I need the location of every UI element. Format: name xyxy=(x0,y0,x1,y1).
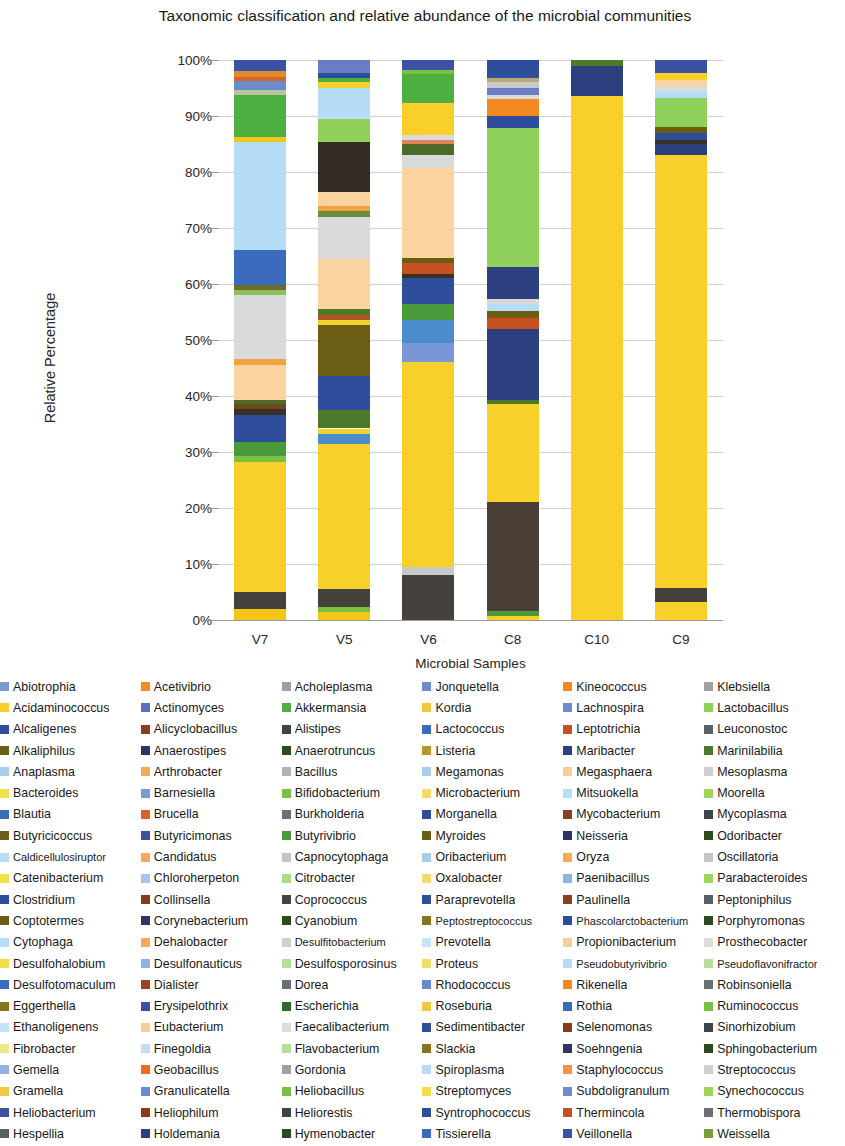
legend-item[interactable]: Peptostreptococcus xyxy=(422,910,563,931)
legend-item[interactable]: Kineococcus xyxy=(563,676,704,697)
legend-item[interactable]: Dehalobacter xyxy=(141,932,282,953)
legend-item[interactable]: Heliorestis xyxy=(282,1102,423,1123)
legend-item[interactable]: Cyanobium xyxy=(282,910,423,931)
legend-item[interactable]: Acetivibrio xyxy=(141,676,282,697)
legend-item[interactable]: Granulicatella xyxy=(141,1081,282,1102)
legend-item[interactable]: Oribacterium xyxy=(422,846,563,867)
legend-item[interactable]: Alicyclobacillus xyxy=(141,719,282,740)
legend-item[interactable]: Dorea xyxy=(282,974,423,995)
legend-item[interactable]: Sphingobacterium xyxy=(704,1038,845,1059)
legend-item[interactable]: Heliophilum xyxy=(141,1102,282,1123)
legend-item[interactable]: Bacteroides xyxy=(0,782,141,803)
legend-item[interactable]: Microbacterium xyxy=(422,782,563,803)
legend-item[interactable]: Lachnospira xyxy=(563,697,704,718)
legend-item[interactable]: Desulfosporosinus xyxy=(282,953,423,974)
legend-item[interactable]: Klebsiella xyxy=(704,676,845,697)
legend-item[interactable]: Odoribacter xyxy=(704,825,845,846)
legend-item[interactable]: Anaerostipes xyxy=(141,740,282,761)
legend-item[interactable]: Faecalibacterium xyxy=(282,1017,423,1038)
legend-item[interactable]: Cytophaga xyxy=(0,932,141,953)
legend-item[interactable]: Peptoniphilus xyxy=(704,889,845,910)
legend-item[interactable]: Streptomyces xyxy=(422,1081,563,1102)
legend-item[interactable]: Capnocytophaga xyxy=(282,846,423,867)
legend-item[interactable]: Escherichia xyxy=(282,995,423,1016)
legend-item[interactable]: Morganella xyxy=(422,804,563,825)
legend-item[interactable]: Propionibacterium xyxy=(563,932,704,953)
legend-item[interactable]: Streptococcus xyxy=(704,1059,845,1080)
legend-item[interactable]: Porphyromonas xyxy=(704,910,845,931)
legend-item[interactable]: Desulfitobacterium xyxy=(282,932,423,953)
legend-item[interactable]: Abiotrophia xyxy=(0,676,141,697)
legend-item[interactable]: Hymenobacter xyxy=(282,1123,423,1144)
legend-item[interactable]: Heliobacterium xyxy=(0,1102,141,1123)
legend-item[interactable]: Brucella xyxy=(141,804,282,825)
legend-item[interactable]: Collinsella xyxy=(141,889,282,910)
legend-item[interactable]: Burkholderia xyxy=(282,804,423,825)
legend-item[interactable]: Sedimentibacter xyxy=(422,1017,563,1038)
legend-item[interactable]: Candidatus xyxy=(141,846,282,867)
legend-item[interactable]: Roseburia xyxy=(422,995,563,1016)
legend-item[interactable]: Robinsoniella xyxy=(704,974,845,995)
legend-item[interactable]: Ethanoligenens xyxy=(0,1017,141,1038)
legend-item[interactable]: Anaerotruncus xyxy=(282,740,423,761)
legend-item[interactable]: Veillonella xyxy=(563,1123,704,1144)
legend-item[interactable]: Slackia xyxy=(422,1038,563,1059)
legend-item[interactable]: Rothia xyxy=(563,995,704,1016)
legend-item[interactable]: Eubacterium xyxy=(141,1017,282,1038)
legend-item[interactable]: Fibrobacter xyxy=(0,1038,141,1059)
legend-item[interactable]: Prosthecobacter xyxy=(704,932,845,953)
legend-item[interactable]: Coptotermes xyxy=(0,910,141,931)
legend-item[interactable]: Gemella xyxy=(0,1059,141,1080)
legend-item[interactable]: Anaplasma xyxy=(0,761,141,782)
legend-item[interactable]: Phascolarctobacterium xyxy=(563,910,704,931)
legend-item[interactable]: Mycobacterium xyxy=(563,804,704,825)
legend-item[interactable]: Citrobacter xyxy=(282,868,423,889)
legend-item[interactable]: Paenibacillus xyxy=(563,868,704,889)
legend-item[interactable]: Caldicellulosiruptor xyxy=(0,846,141,867)
legend-item[interactable]: Syntrophococcus xyxy=(422,1102,563,1123)
legend-item[interactable]: Moorella xyxy=(704,782,845,803)
legend-item[interactable]: Synechococcus xyxy=(704,1081,845,1102)
legend-item[interactable]: Arthrobacter xyxy=(141,761,282,782)
legend-item[interactable]: Alkaliphilus xyxy=(0,740,141,761)
legend-item[interactable]: Erysipelothrix xyxy=(141,995,282,1016)
legend-item[interactable]: Oscillatoria xyxy=(704,846,845,867)
legend-item[interactable]: Corynebacterium xyxy=(141,910,282,931)
legend-item[interactable]: Thermobispora xyxy=(704,1102,845,1123)
legend-item[interactable]: Oryza xyxy=(563,846,704,867)
legend-item[interactable]: Jonquetella xyxy=(422,676,563,697)
legend-item[interactable]: Parabacteroides xyxy=(704,868,845,889)
legend-item[interactable]: Alcaligenes xyxy=(0,719,141,740)
legend-item[interactable]: Leptotrichia xyxy=(563,719,704,740)
legend-item[interactable]: Marinilabilia xyxy=(704,740,845,761)
legend-item[interactable]: Staphylococcus xyxy=(563,1059,704,1080)
legend-item[interactable]: Ruminococcus xyxy=(704,995,845,1016)
legend-item[interactable]: Geobacillus xyxy=(141,1059,282,1080)
legend-item[interactable]: Mesoplasma xyxy=(704,761,845,782)
legend-item[interactable]: Pseudoflavonifractor xyxy=(704,953,845,974)
legend-item[interactable]: Mitsuokella xyxy=(563,782,704,803)
legend-item[interactable]: Rikenella xyxy=(563,974,704,995)
legend-item[interactable]: Butyricicoccus xyxy=(0,825,141,846)
legend-item[interactable]: Finegoldia xyxy=(141,1038,282,1059)
legend-item[interactable]: Heliobacillus xyxy=(282,1081,423,1102)
legend-item[interactable]: Gordonia xyxy=(282,1059,423,1080)
legend-item[interactable]: Paulinella xyxy=(563,889,704,910)
legend-item[interactable]: Kordia xyxy=(422,697,563,718)
legend-item[interactable]: Gramella xyxy=(0,1081,141,1102)
legend-item[interactable]: Barnesiella xyxy=(141,782,282,803)
legend-item[interactable]: Actinomyces xyxy=(141,697,282,718)
legend-item[interactable]: Tissierella xyxy=(422,1123,563,1144)
legend-item[interactable]: Weissella xyxy=(704,1123,845,1144)
legend-item[interactable]: Desulfotomaculum xyxy=(0,974,141,995)
legend-item[interactable]: Hespellia xyxy=(0,1123,141,1144)
legend-item[interactable]: Sinorhizobium xyxy=(704,1017,845,1038)
legend-item[interactable]: Desulfohalobium xyxy=(0,953,141,974)
legend-item[interactable]: Pseudobutyrivibrio xyxy=(563,953,704,974)
legend-item[interactable]: Listeria xyxy=(422,740,563,761)
legend-item[interactable]: Blautia xyxy=(0,804,141,825)
legend-item[interactable]: Catenibacterium xyxy=(0,868,141,889)
legend-item[interactable]: Flavobacterium xyxy=(282,1038,423,1059)
legend-item[interactable]: Myroides xyxy=(422,825,563,846)
legend-item[interactable]: Clostridium xyxy=(0,889,141,910)
